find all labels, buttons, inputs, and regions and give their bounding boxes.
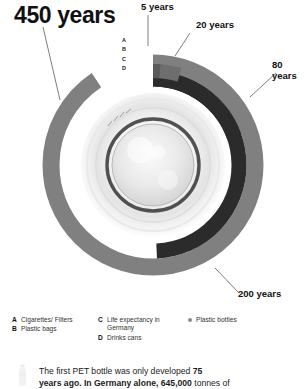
axis-key-c: C: [122, 55, 126, 64]
legend-item-b: B Plastic bags: [12, 325, 94, 333]
leader-450: [43, 27, 60, 100]
legend-item-a: A Cigarettes/ Filters: [12, 316, 94, 324]
legend-key-d: D: [98, 334, 107, 342]
callout-200-years: 200 years: [238, 289, 281, 300]
footnote-line1-b: 75: [193, 366, 203, 376]
legend-label-plastic-bags: Plastic bags: [21, 325, 94, 333]
legend-key-a: A: [12, 316, 21, 324]
callout-5-years: 5 years: [141, 2, 174, 13]
footnote-text: The first PET bottle was only developed …: [39, 366, 294, 389]
legend-label-life-expectancy: Life expectancy in Germany: [107, 316, 184, 333]
legend-key-b: B: [12, 325, 21, 333]
legend-key-c: C: [98, 316, 107, 324]
legend-column-two: C Life expectancy in Germany D Drinks ca…: [98, 316, 184, 343]
legend-dot-icon: [188, 318, 192, 322]
callout-80-line2: years: [272, 70, 297, 81]
callout-80-years: 80 years: [272, 60, 297, 82]
axis-key-a: A: [122, 36, 126, 45]
axis-key-list: A B C D: [122, 36, 126, 74]
axis-key-b: B: [122, 45, 126, 54]
callout-20-years: 20 years: [196, 20, 234, 31]
legend-item-d: D Drinks cans: [98, 334, 184, 342]
legend-label-drinks-cans: Drinks cans: [107, 334, 184, 342]
pet-bottle-photo: [81, 93, 225, 237]
footnote-line2-c: tonnes of: [192, 378, 230, 388]
axis-key-d: D: [122, 64, 126, 73]
page-title: 450 years: [14, 2, 115, 29]
legend-column-three: Plastic bottles: [188, 316, 298, 325]
legend-label-plastic-bottles: Plastic bottles: [196, 316, 298, 324]
footnote-line2-a: years ago. In Germany alone,: [39, 378, 161, 388]
legend-label-cigarettes: Cigarettes/ Filters: [21, 316, 94, 324]
legend-item-c: C Life expectancy in Germany: [98, 316, 184, 333]
legend-item-plastic-bottles: Plastic bottles: [188, 316, 298, 324]
callout-80-line1: 80: [272, 59, 283, 70]
legend-column-one: A Cigarettes/ Filters B Plastic bags: [12, 316, 94, 335]
bottle-icon: [16, 364, 29, 386]
footnote-line2-b: 645,000: [161, 378, 192, 388]
leader-20: [175, 33, 190, 56]
footnote-line1-a: The first PET bottle was only developed: [39, 366, 193, 376]
leader-200: [215, 268, 239, 293]
